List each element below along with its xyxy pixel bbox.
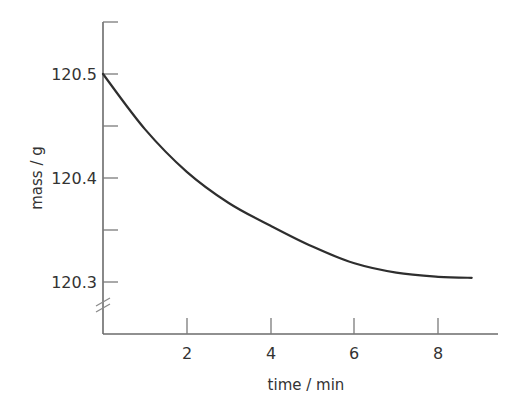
x-tick-label: 6 — [349, 344, 359, 363]
y-ticks — [103, 22, 118, 282]
y-tick-label: 120.4 — [51, 169, 97, 188]
x-axis-label: time / min — [268, 376, 345, 394]
chart: 120.5 120.4 120.3 2 4 6 8 time / min mas… — [0, 0, 517, 414]
x-tick-label: 2 — [182, 344, 192, 363]
x-tick-label: 8 — [433, 344, 443, 363]
mass-curve — [103, 74, 472, 278]
x-tick-label: 4 — [266, 344, 276, 363]
y-axis-label: mass / g — [28, 146, 46, 210]
y-tick-label: 120.3 — [51, 273, 97, 292]
x-ticks — [187, 318, 438, 334]
y-tick-label: 120.5 — [51, 65, 97, 84]
